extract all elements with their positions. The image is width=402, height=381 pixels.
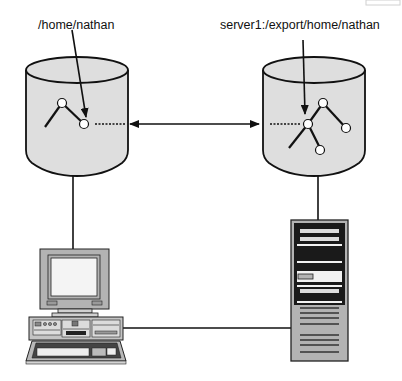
client-disk-cylinder — [26, 57, 128, 176]
nfs-mount-diagram: /home/nathan server1:/export/home/nathan — [0, 0, 402, 381]
server-path-label: server1:/export/home/nathan — [220, 18, 380, 32]
corner-box — [366, 0, 400, 5]
server-disk-cylinder — [263, 57, 365, 176]
client-path-label: /home/nathan — [38, 18, 114, 32]
client-workstation-icon — [26, 249, 126, 364]
server-tower-icon — [291, 220, 348, 361]
